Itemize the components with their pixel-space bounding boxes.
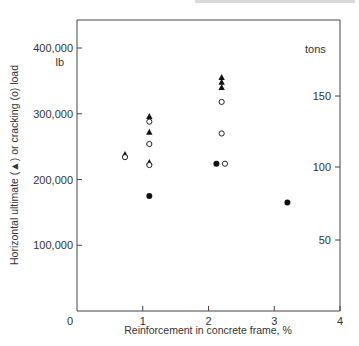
open-circle-marker-icon xyxy=(219,131,224,136)
y-axis-title: Horizontal ultimate (▲) or cracking (o) … xyxy=(8,65,20,265)
right-tick-label: 150 xyxy=(313,90,331,102)
filled-circle-marker-icon xyxy=(146,193,152,199)
x-axis-title: Reinforcement in concrete frame, % xyxy=(124,324,292,336)
open-circle-marker-icon xyxy=(147,119,152,124)
y-unit-left: lb xyxy=(55,56,64,68)
x-tick-label: 4 xyxy=(337,315,343,327)
open-circle-marker-icon xyxy=(147,162,152,167)
right-tick-label: 100 xyxy=(313,161,331,173)
filled-circle-marker-icon xyxy=(284,200,290,206)
triangle-marker-icon xyxy=(218,84,224,90)
open-circle-marker-icon xyxy=(219,99,224,104)
triangle-marker-icon xyxy=(146,129,152,135)
y-tick-label: 200,000 xyxy=(33,174,73,186)
data-points xyxy=(122,74,291,205)
right-tick-label: 50 xyxy=(319,234,331,246)
scatter-chart: 100,000200,000300,000400,000 50100150 01… xyxy=(0,0,359,346)
top-cutoff-text xyxy=(195,0,355,3)
open-circle-marker-icon xyxy=(147,141,152,146)
y-tick-label: 300,000 xyxy=(33,108,73,120)
open-circle-marker-icon xyxy=(222,161,227,166)
y-axis-right: 50100150 xyxy=(313,90,340,246)
y-tick-label: 100,000 xyxy=(33,239,73,251)
triangle-marker-icon xyxy=(146,113,152,119)
x-origin-label: 0 xyxy=(67,315,73,327)
y-tick-label: 400,000 xyxy=(33,42,73,54)
y-unit-right: tons xyxy=(305,43,326,55)
filled-circle-marker-icon xyxy=(213,161,219,167)
y-axis-left: 100,000200,000300,000400,000 xyxy=(33,42,82,251)
open-circle-marker-icon xyxy=(122,155,127,160)
plot-frame xyxy=(77,20,340,311)
